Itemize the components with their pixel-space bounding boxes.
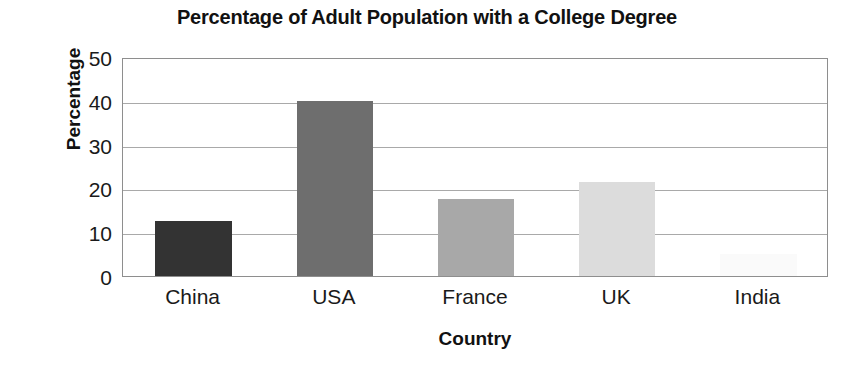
y-axis-tick-label: 20	[89, 179, 112, 200]
bar-chart-figure: Percentage of Adult Population with a Co…	[0, 0, 854, 376]
x-axis-tick-label: USA	[312, 284, 355, 309]
plot-area	[122, 58, 828, 277]
bar	[579, 182, 655, 276]
x-axis-tick-label: India	[735, 284, 781, 309]
x-axis-tick-label: France	[442, 284, 507, 309]
x-axis-tick-label: China	[165, 284, 220, 309]
bar	[438, 199, 514, 276]
bar	[155, 221, 231, 276]
bar	[297, 101, 373, 276]
y-axis-tick-labels: 01020304050	[56, 58, 112, 277]
y-axis-tick-label: 10	[89, 223, 112, 244]
y-axis-tick-label: 30	[89, 135, 112, 156]
chart-title: Percentage of Adult Population with a Co…	[0, 6, 854, 29]
bar	[720, 254, 796, 276]
x-axis-tick-label: UK	[602, 284, 631, 309]
y-axis-tick-label: 0	[100, 267, 112, 288]
x-axis-title: Country	[122, 328, 828, 350]
x-axis-tick-labels: ChinaUSAFranceUKIndia	[122, 284, 828, 318]
y-axis-tick-label: 50	[89, 48, 112, 69]
y-axis-tick-label: 40	[89, 91, 112, 112]
bars-group	[123, 59, 827, 276]
